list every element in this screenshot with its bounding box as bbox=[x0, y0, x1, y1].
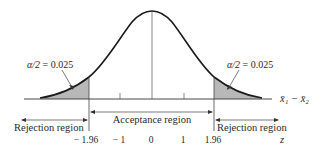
z-tick-label: 1.96 bbox=[205, 135, 222, 145]
right-rejection-region-label: Rejection region bbox=[217, 122, 287, 133]
left-alpha-label: α/2 = 0.025 bbox=[27, 59, 73, 70]
z-tick-label: − 1.96 bbox=[74, 135, 99, 145]
acceptance-region-label: Acceptance region bbox=[113, 114, 192, 125]
axis-label-z: z bbox=[279, 134, 284, 145]
z-tick-label: 0 bbox=[149, 135, 154, 145]
left-tail-shading bbox=[40, 77, 89, 99]
acceptance-arrow-left-head-icon bbox=[90, 110, 95, 114]
left-rejection-region-label: Rejection region bbox=[14, 122, 84, 133]
normal-distribution-diagram: α/2 = 0.025 α/2 = 0.025 x̄₁ − x̄₂ z Acce… bbox=[0, 0, 325, 153]
right-tail-shading bbox=[214, 77, 262, 99]
z-tick-label: − 1 bbox=[113, 135, 126, 145]
right-alpha-label: α/2 = 0.025 bbox=[227, 59, 273, 70]
normal-curve bbox=[40, 11, 262, 98]
axis-label-difference: x̄₁ − x̄₂ bbox=[279, 93, 309, 104]
z-tick-label: 1 bbox=[181, 135, 186, 145]
acceptance-arrow-right-head-icon bbox=[208, 110, 213, 114]
left-rejection-arrow-right-head-icon bbox=[83, 118, 88, 122]
